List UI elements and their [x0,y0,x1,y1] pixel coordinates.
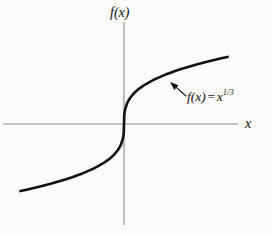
equation-equals-sign: = [206,89,217,104]
figure-cube-root-graph: f(x) x f(x)=x1/3 [0,0,272,233]
equation-annotation: f(x)=x1/3 [187,88,234,103]
equation-lhs: f(x) [187,89,206,104]
x-axis-label: x [245,117,251,131]
y-axis-label: f(x) [110,6,129,20]
equation-exponent: 1/3 [223,87,234,97]
plot-canvas [0,0,272,233]
